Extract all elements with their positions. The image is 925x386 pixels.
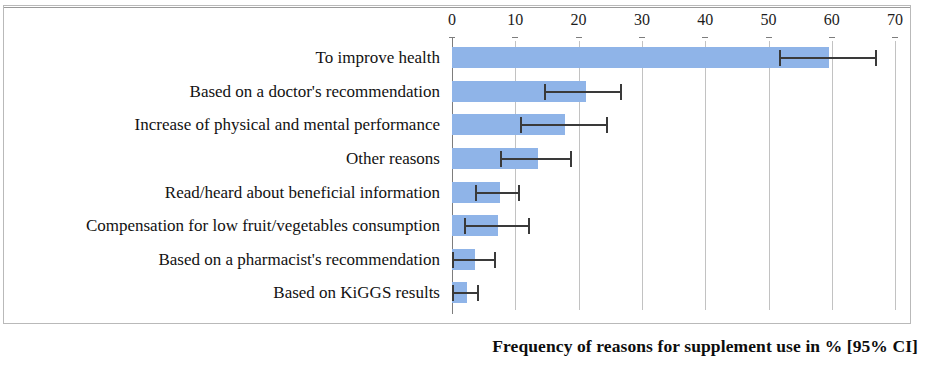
bar-row <box>452 176 898 210</box>
error-bar-cap-high <box>477 285 479 301</box>
x-tick-label: 40 <box>697 10 713 30</box>
error-bar-cap-low <box>452 285 454 301</box>
x-tick-label: 0 <box>448 10 456 30</box>
category-label: Based on a pharmacist's recommendation <box>8 243 440 277</box>
category-label: Increase of physical and mental performa… <box>8 108 440 142</box>
chart-figure: 010203040506070 To improve healthBased o… <box>0 0 925 386</box>
error-bar <box>475 192 520 194</box>
error-bar-cap-high <box>620 84 622 100</box>
axis-tick <box>639 37 645 38</box>
error-bar <box>779 57 877 59</box>
axis-top-rule <box>4 7 910 8</box>
error-bar-cap-high <box>518 185 520 201</box>
category-labels: To improve healthBased on a doctor's rec… <box>8 41 448 310</box>
error-bar <box>452 259 496 261</box>
error-bar-cap-high <box>606 117 608 133</box>
error-bar <box>544 91 622 93</box>
error-bar-cap-low <box>544 84 546 100</box>
error-bar-cap-high <box>570 151 572 167</box>
plot-area <box>452 41 898 310</box>
error-bar-cap-low <box>452 252 454 268</box>
bar <box>452 47 829 68</box>
error-bar-cap-low <box>464 218 466 234</box>
error-bar-cap-high <box>528 218 530 234</box>
bar-row <box>452 75 898 109</box>
error-bar-cap-low <box>475 185 477 201</box>
bar-row <box>452 142 898 176</box>
x-tick-label: 70 <box>887 10 903 30</box>
bar-row <box>452 243 898 277</box>
axis-tick <box>829 37 835 38</box>
x-axis-tick-labels: 010203040506070 <box>0 10 925 32</box>
axis-tick <box>449 37 455 38</box>
bar-row <box>452 108 898 142</box>
x-tick-label: 60 <box>824 10 840 30</box>
error-bar <box>464 225 530 227</box>
error-bar-cap-low <box>779 50 781 66</box>
error-bar <box>520 124 608 126</box>
axis-tick <box>892 37 898 38</box>
error-bar-cap-low <box>520 117 522 133</box>
error-bar-cap-low <box>500 151 502 167</box>
x-axis-title: Frequency of reasons for supplement use … <box>0 336 918 357</box>
category-label: Read/heard about beneficial information <box>8 176 440 210</box>
error-bar <box>452 292 479 294</box>
axis-tick <box>512 37 518 38</box>
error-bar <box>500 158 572 160</box>
x-tick-label: 30 <box>634 10 650 30</box>
x-tick-label: 20 <box>571 10 587 30</box>
category-label: Other reasons <box>8 142 440 176</box>
category-label: Compensation for low fruit/vegetables co… <box>8 209 440 243</box>
bar-row <box>452 41 898 75</box>
axis-tick <box>702 37 708 38</box>
category-label: To improve health <box>8 41 440 75</box>
error-bar-cap-high <box>875 50 877 66</box>
category-label: Based on KiGGS results <box>8 276 440 310</box>
axis-tick <box>576 37 582 38</box>
x-tick-label: 50 <box>761 10 777 30</box>
category-label: Based on a doctor's recommendation <box>8 75 440 109</box>
bar-row <box>452 276 898 310</box>
bar-row <box>452 209 898 243</box>
axis-tick <box>766 37 772 38</box>
error-bar-cap-high <box>494 252 496 268</box>
x-tick-label: 10 <box>507 10 523 30</box>
